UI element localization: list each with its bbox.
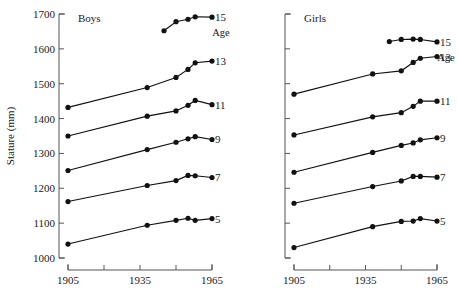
series-boys-age-7: 7 xyxy=(65,171,221,204)
y-axis-title: Stature (mm) xyxy=(4,106,17,165)
data-point-girls-9-1965 xyxy=(434,135,439,140)
data-point-girls-9-1955 xyxy=(411,140,416,145)
data-point-girls-7-1950 xyxy=(399,178,404,183)
panel-boys: 1000110012001300140015001600170019051935… xyxy=(33,8,230,286)
data-point-boys-11-1958 xyxy=(193,98,198,103)
data-point-girls-13-1905 xyxy=(291,92,296,97)
series-line-girls-7 xyxy=(294,176,437,203)
series-line-girls-5 xyxy=(294,219,437,248)
data-point-boys-15-1955 xyxy=(185,17,190,22)
series-girls-age-7: 7 xyxy=(291,171,446,206)
y-tick-label-1100: 1100 xyxy=(33,217,55,229)
series-line-boys-13 xyxy=(68,61,212,107)
data-point-boys-15-1958 xyxy=(193,14,198,19)
x-tick-label-boys-1935: 1935 xyxy=(129,274,152,286)
series-age-label-girls-7: 7 xyxy=(440,171,446,183)
panel-girls: 190519351965Girls151311975Age xyxy=(283,12,455,286)
data-point-boys-13-1950 xyxy=(173,75,178,80)
data-point-girls-9-1958 xyxy=(418,137,423,142)
data-point-boys-9-1958 xyxy=(193,134,198,139)
series-boys-age-9: 9 xyxy=(65,133,221,173)
age-header-girls: Age xyxy=(437,52,455,63)
series-girls-age-5: 5 xyxy=(291,215,446,250)
data-point-boys-5-1905 xyxy=(65,241,70,246)
data-point-boys-7-1905 xyxy=(65,199,70,204)
data-point-boys-15-1945 xyxy=(161,28,166,33)
series-line-boys-7 xyxy=(68,175,212,201)
data-point-boys-15-1965 xyxy=(209,15,214,20)
data-point-girls-5-1955 xyxy=(411,218,416,223)
data-point-girls-15-1955 xyxy=(411,37,416,42)
data-point-boys-5-1938 xyxy=(145,223,150,228)
data-point-boys-9-1965 xyxy=(209,137,214,142)
y-tick-label-1400: 1400 xyxy=(33,113,56,125)
data-point-girls-7-1958 xyxy=(418,174,423,179)
data-point-girls-7-1905 xyxy=(291,201,296,206)
data-point-girls-11-1958 xyxy=(418,99,423,104)
data-point-boys-9-1905 xyxy=(65,168,70,173)
data-point-girls-5-1950 xyxy=(399,219,404,224)
series-girls-age-15: 15 xyxy=(387,36,452,48)
data-point-girls-7-1955 xyxy=(411,174,416,179)
series-age-label-boys-5: 5 xyxy=(215,213,221,225)
data-point-girls-11-1955 xyxy=(411,104,416,109)
data-point-boys-11-1965 xyxy=(209,102,214,107)
series-girls-age-9: 9 xyxy=(291,132,446,175)
chart-canvas: Stature (mm)1000110012001300140015001600… xyxy=(0,0,459,298)
data-point-boys-11-1905 xyxy=(65,133,70,138)
x-tick-label-girls-1965: 1965 xyxy=(426,274,449,286)
series-girls-age-11: 11 xyxy=(291,95,450,137)
series-boys-age-11: 11 xyxy=(65,98,225,139)
data-point-boys-9-1938 xyxy=(145,147,150,152)
data-point-girls-9-1905 xyxy=(291,170,296,175)
data-point-girls-13-1958 xyxy=(418,56,423,61)
data-point-girls-11-1938 xyxy=(370,114,375,119)
data-point-boys-11-1955 xyxy=(185,103,190,108)
x-tick-label-boys-1905: 1905 xyxy=(57,274,80,286)
data-point-girls-7-1938 xyxy=(370,184,375,189)
data-point-boys-5-1950 xyxy=(173,218,178,223)
data-point-boys-5-1955 xyxy=(185,216,190,221)
data-point-girls-5-1965 xyxy=(434,218,439,223)
data-point-boys-13-1938 xyxy=(145,85,150,90)
data-point-boys-7-1965 xyxy=(209,175,214,180)
y-tick-label-1700: 1700 xyxy=(33,8,56,20)
data-point-girls-5-1905 xyxy=(291,245,296,250)
data-point-boys-9-1955 xyxy=(185,136,190,141)
y-tick-label-1200: 1200 xyxy=(33,182,56,194)
y-tick-label-1500: 1500 xyxy=(33,78,56,90)
series-age-label-girls-9: 9 xyxy=(440,132,446,144)
series-age-label-boys-15: 15 xyxy=(215,11,227,23)
data-point-girls-15-1950 xyxy=(399,37,404,42)
data-point-girls-9-1950 xyxy=(399,143,404,148)
data-point-boys-7-1958 xyxy=(193,173,198,178)
data-point-boys-15-1950 xyxy=(173,19,178,24)
data-point-boys-11-1950 xyxy=(173,108,178,113)
series-age-label-boys-11: 11 xyxy=(215,99,226,111)
data-point-boys-11-1938 xyxy=(145,114,150,119)
data-point-girls-7-1965 xyxy=(434,175,439,180)
x-tick-label-girls-1905: 1905 xyxy=(283,274,306,286)
data-point-boys-13-1965 xyxy=(209,58,214,63)
series-age-label-girls-15: 15 xyxy=(440,36,452,48)
series-age-label-boys-9: 9 xyxy=(215,133,221,145)
data-point-girls-13-1955 xyxy=(411,60,416,65)
data-point-girls-15-1958 xyxy=(418,37,423,42)
y-tick-label-1600: 1600 xyxy=(33,43,56,55)
data-point-girls-11-1950 xyxy=(399,110,404,115)
stature-chart-figure: Stature (mm)1000110012001300140015001600… xyxy=(0,0,459,298)
series-line-boys-5 xyxy=(68,218,212,244)
series-age-label-girls-5: 5 xyxy=(440,215,446,227)
data-point-girls-5-1938 xyxy=(370,224,375,229)
series-line-boys-9 xyxy=(68,137,212,171)
data-point-girls-11-1965 xyxy=(434,99,439,104)
data-point-boys-13-1905 xyxy=(65,105,70,110)
series-age-label-girls-11: 11 xyxy=(440,95,451,107)
data-point-boys-5-1958 xyxy=(193,218,198,223)
y-axis-line-boys xyxy=(59,14,65,258)
data-point-girls-15-1965 xyxy=(434,39,439,44)
data-point-girls-11-1905 xyxy=(291,132,296,137)
data-point-boys-9-1950 xyxy=(173,140,178,145)
y-tick-label-1000: 1000 xyxy=(33,252,56,264)
x-tick-label-girls-1935: 1935 xyxy=(355,274,378,286)
